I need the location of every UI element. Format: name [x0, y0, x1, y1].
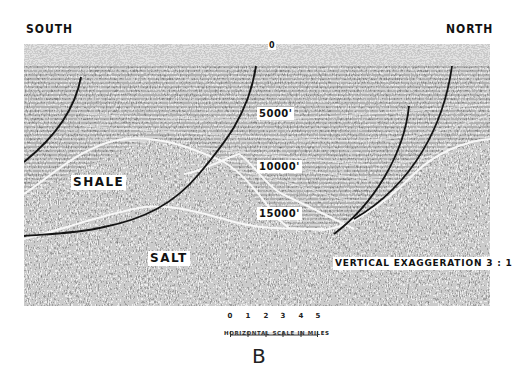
depth-label-15000: 15000' [257, 207, 302, 220]
horizontal-scale-bar: 0 1 2 3 4 5 HORIZONTAL SCALE IN MILES [224, 312, 324, 336]
scale-tick-0: 0 [228, 312, 233, 320]
unit-label-salt: SALT [148, 251, 190, 266]
surface-zero-marker: 0 [268, 41, 276, 50]
scale-tick-2: 2 [264, 312, 269, 320]
scale-tick-5: 5 [316, 312, 321, 320]
scale-tick-4: 4 [299, 312, 304, 320]
scale-bar-line [230, 322, 320, 328]
unit-label-shale: SHALE [71, 175, 126, 190]
vertical-exaggeration-label: VERTICAL EXAGGERATION 3 : 1 [333, 257, 515, 270]
seismic-section: 5000' 10000' 15000' SHALE SALT VERTICAL … [24, 44, 490, 306]
scale-tick-3: 3 [281, 312, 286, 320]
panel-letter: B [252, 344, 266, 368]
direction-label-south: SOUTH [26, 22, 73, 36]
direction-label-north: NORTH [446, 22, 493, 36]
scale-tick-1: 1 [246, 312, 251, 320]
depth-label-5000: 5000' [257, 107, 294, 120]
depth-label-10000: 10000' [257, 160, 302, 173]
scale-tick-labels: 0 1 2 3 4 5 [224, 312, 324, 322]
